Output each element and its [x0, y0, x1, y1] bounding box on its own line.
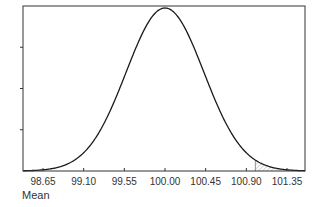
x-tick-label: 98.65 — [30, 176, 55, 187]
x-axis-title: Mean — [22, 189, 50, 201]
x-tick-label: 100.00 — [150, 176, 181, 187]
x-tick-label: 101.35 — [272, 176, 303, 187]
x-tick-label: 100.45 — [190, 176, 221, 187]
x-tick-label: 99.10 — [71, 176, 96, 187]
density-curve — [23, 8, 305, 171]
normal-distribution-chart: 98.6599.1099.55100.00100.45100.90101.35 … — [0, 0, 323, 207]
plot-frame — [23, 6, 305, 171]
x-tick-label: 100.90 — [231, 176, 262, 187]
x-tick-label: 99.55 — [112, 176, 137, 187]
